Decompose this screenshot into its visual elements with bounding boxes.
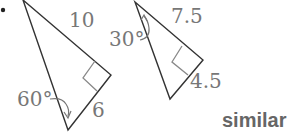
similar-triangles-figure: 10 60° 6 7.5 30° 4.5 similar — [0, 0, 295, 137]
triangle-a-angle-arrow-icon — [64, 111, 71, 118]
bullet-dot — [1, 8, 5, 12]
triangle-a-right-angle-marker — [83, 61, 97, 91]
triangle-a-angle-label: 60° — [17, 89, 52, 109]
triangle-b-hypotenuse-label: 7.5 — [171, 6, 203, 26]
triangle-a-angle-arc — [50, 99, 69, 116]
triangle-a-side-label: 6 — [92, 100, 105, 120]
triangle-a-hypotenuse-label: 10 — [69, 10, 94, 30]
answer-text: similar — [222, 110, 286, 130]
triangle-b-side-label: 4.5 — [190, 71, 222, 91]
triangle-b-right-angle-marker — [172, 46, 188, 75]
triangle-b-angle-label: 30° — [109, 29, 144, 49]
